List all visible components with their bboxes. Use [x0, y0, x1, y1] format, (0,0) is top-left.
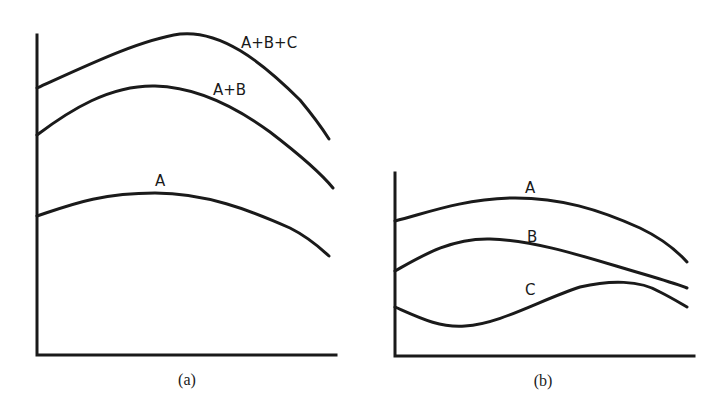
panel-b: A B C (b): [395, 173, 694, 390]
label-b-a: A: [525, 179, 536, 197]
caption-a: (a): [178, 371, 196, 389]
label-a: A: [155, 172, 166, 190]
curve-a-b: [37, 86, 333, 188]
caption-b: (b): [534, 372, 553, 390]
label-b-c: C: [525, 281, 535, 299]
curve-b-a: [395, 198, 687, 262]
diagram-canvas: A+B+C A+B A (a) A B C (b): [0, 0, 721, 406]
label-a-b: A+B: [213, 81, 246, 99]
curve-b-c: [395, 282, 687, 326]
curve-b-b: [395, 239, 687, 288]
curve-a: [37, 193, 329, 256]
label-a-b-c: A+B+C: [241, 34, 297, 52]
label-b-b: B: [527, 228, 537, 246]
panel-a: A+B+C A+B A (a): [37, 34, 336, 389]
